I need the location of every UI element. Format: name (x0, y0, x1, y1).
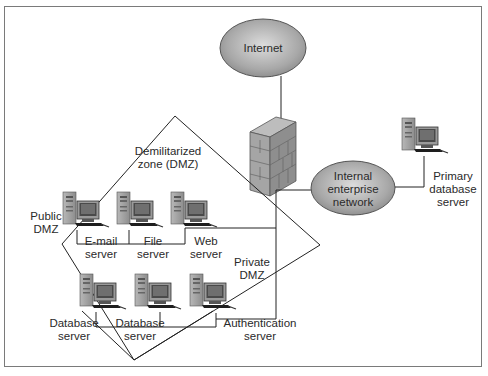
public-dmz-label: Public DMZ (25, 210, 67, 236)
private-dmz-label: Private DMZ (230, 256, 274, 282)
primary-database-server-icon (402, 118, 448, 153)
database-server-1-icon (80, 274, 126, 309)
file-server-label: File server (128, 235, 178, 261)
primary-db-label: Primary database server (420, 170, 486, 209)
internet-label: Internet (228, 42, 298, 55)
dmz-zone-label: Demilitarized zone (DMZ) (123, 145, 213, 171)
web-server-icon (171, 192, 217, 227)
database-server-2-label: Database server (110, 317, 170, 343)
email-server-label: E-mail server (76, 235, 126, 261)
authentication-server-label: Authentication server (218, 317, 302, 343)
web-server-label: Web server (181, 235, 231, 261)
firewall-icon (250, 117, 296, 196)
database-server-1-label: Database server (44, 317, 104, 343)
database-server-2-icon (135, 274, 181, 309)
file-server-icon (117, 192, 163, 227)
email-server-icon (63, 192, 109, 227)
internal-network-label: Internal enterprise network (313, 170, 393, 209)
